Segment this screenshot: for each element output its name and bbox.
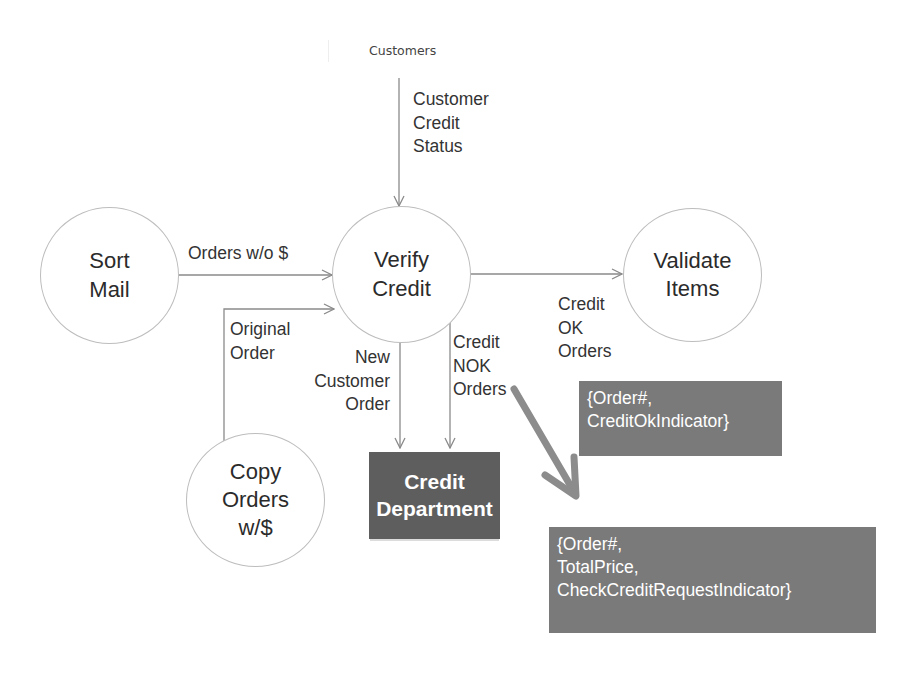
process-sort-mail[interactable]: Sort Mail xyxy=(40,207,179,344)
flow-label-orders-without-money: Orders w/o $ xyxy=(188,242,288,266)
data-store-label: Customers xyxy=(369,43,436,58)
flow-label-new-customer-order: New Customer Order xyxy=(290,346,390,417)
data-store-customers: Customers xyxy=(328,40,448,62)
note-credit-nok-structure: {Order#, TotalPrice, CheckCreditRequestI… xyxy=(549,527,876,633)
process-label: Copy Orders w/$ xyxy=(222,458,289,542)
process-verify-credit[interactable]: Verify Credit xyxy=(332,206,471,343)
dfd-canvas: Customers Sort Mail Verify Credit Valida… xyxy=(0,0,911,678)
note-credit-ok-structure: {Order#, CreditOkIndicator} xyxy=(579,381,782,456)
process-label: Verify Credit xyxy=(372,246,431,302)
flow-label-original-order: Original Order xyxy=(230,318,290,365)
process-copy-orders[interactable]: Copy Orders w/$ xyxy=(186,433,325,567)
flow-label-credit-nok-orders: Credit NOK Orders xyxy=(453,331,506,402)
flow-label-customer-credit-status: Customer Credit Status xyxy=(413,88,489,159)
entity-label: Credit Department xyxy=(376,469,493,523)
external-entity-credit-department[interactable]: Credit Department xyxy=(369,452,500,539)
process-label: Sort Mail xyxy=(89,247,129,303)
process-label: Validate Items xyxy=(654,247,732,303)
process-validate-items[interactable]: Validate Items xyxy=(623,208,762,342)
flow-label-credit-ok-orders: Credit OK Orders xyxy=(558,293,611,364)
annotation-pointer-arrow xyxy=(514,389,576,496)
